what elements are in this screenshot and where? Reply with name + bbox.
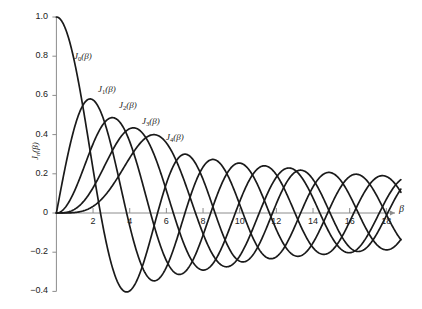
y-tick-label-0: 1.0 <box>0 12 48 21</box>
curve-label-argument: (β) <box>81 51 91 61</box>
x-tick-label-7: 16 <box>336 217 364 226</box>
x-axis-arrow <box>390 211 395 216</box>
x-tick-label-3: 8 <box>189 217 217 226</box>
x-tick-label-8: 18 <box>372 217 400 226</box>
y-tick-label-6: −0.2 <box>0 247 48 256</box>
y-axis-title: Jn(β) <box>30 142 41 160</box>
y-tick-label-1: 0.8 <box>0 51 48 60</box>
curve-label-j1: J1(β) <box>98 85 116 95</box>
curve-label-argument: (β) <box>126 100 136 110</box>
y-tick-label-3: 0.4 <box>0 130 48 139</box>
curve-layer <box>56 17 401 292</box>
curve-j0 <box>56 17 401 292</box>
curve-label-argument: (β) <box>149 116 159 126</box>
bessel-function-chart: 1.00.80.60.40.20−0.2−0.4 24681012141618 … <box>0 0 422 309</box>
y-tick-label-4: 0.2 <box>0 169 48 178</box>
curve-label-j4: J4(β) <box>166 133 184 143</box>
x-tick-label-0: 2 <box>79 217 107 226</box>
y-axis-title-base: J <box>30 156 40 160</box>
y-tick-label-2: 0.6 <box>0 90 48 99</box>
curve-label-argument: (β) <box>173 132 183 142</box>
y-tick-label-7: −0.4 <box>0 286 48 295</box>
y-axis-title-subscript: n <box>34 153 41 156</box>
x-tick-label-6: 14 <box>299 217 327 226</box>
y-axis-title-arg: (β) <box>30 142 40 152</box>
x-tick-label-4: 10 <box>226 217 254 226</box>
x-tick-label-1: 4 <box>116 217 144 226</box>
x-tick-label-2: 6 <box>152 217 180 226</box>
curve-label-j3: J3(β) <box>142 117 160 127</box>
curve-label-argument: (β) <box>105 84 115 94</box>
y-tick-label-5: 0 <box>0 208 48 217</box>
x-tick-label-5: 12 <box>262 217 290 226</box>
x-axis-title: β <box>399 203 404 214</box>
curve-label-j2: J2(β) <box>119 101 137 111</box>
plot-canvas <box>0 0 422 309</box>
curve-label-j0: J0(β) <box>74 52 92 62</box>
